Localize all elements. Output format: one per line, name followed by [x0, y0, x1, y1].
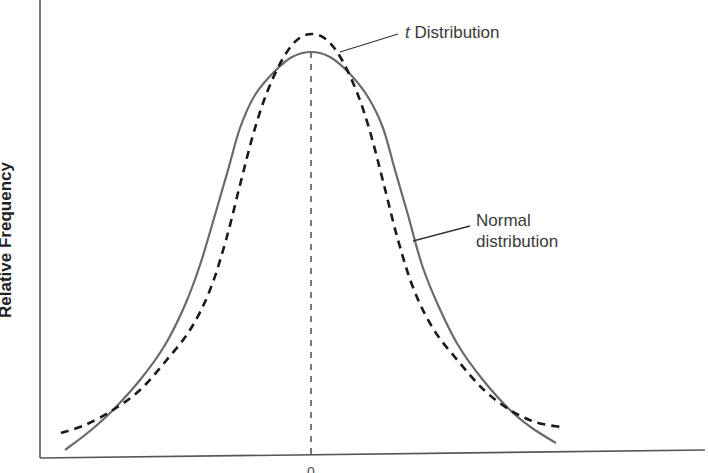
t-distribution-leader-line: [340, 34, 398, 52]
t-distribution-label-text: Distribution: [410, 23, 500, 42]
y-axis-label-text: Relative Frequency: [0, 162, 16, 318]
t-distribution-label: t Distribution: [405, 22, 500, 43]
x-axis: [40, 450, 705, 458]
x-center-tick-label: 0: [307, 465, 315, 473]
normal-distribution-leader-line: [413, 226, 470, 241]
normal-label-line2: distribution: [476, 231, 558, 252]
normal-label-line1: Normal: [476, 210, 558, 231]
normal-distribution-label: Normal distribution: [476, 210, 558, 252]
chart-canvas: [0, 0, 709, 473]
